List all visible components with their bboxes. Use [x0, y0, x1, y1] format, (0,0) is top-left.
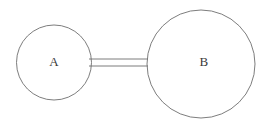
circle-a-label: A: [49, 54, 59, 69]
two-circle-tube-diagram: A B: [0, 0, 277, 127]
circle-b-label: B: [200, 54, 209, 69]
diagram-canvas: A B: [0, 0, 277, 127]
